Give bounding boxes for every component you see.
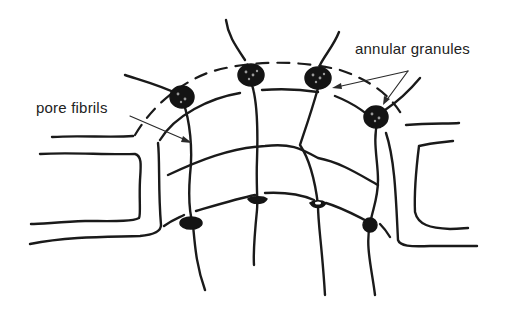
lower-granules: [180, 197, 377, 232]
right-nuclear-envelope: [386, 123, 477, 246]
lower-ring-arc: [164, 193, 390, 237]
pore-fibrils: [125, 20, 420, 295]
annular-granules-label: annular granules: [355, 40, 470, 57]
pore-fibrils-label: pore fibrils: [36, 99, 108, 116]
granule-3: [305, 67, 331, 89]
middle-spoke-arc: [168, 145, 378, 185]
granule-1: [170, 86, 194, 108]
left-nuclear-envelope: [30, 136, 161, 244]
granule-2: [238, 64, 264, 86]
nuclear-pore-diagram: pore fibrils annular granules: [0, 0, 518, 309]
granule-4: [364, 106, 388, 128]
annular-granules: [170, 64, 388, 128]
